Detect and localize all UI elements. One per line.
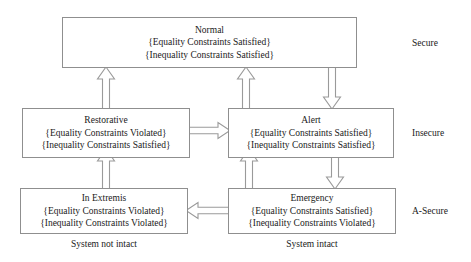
arrow-normal-to-alert [322, 66, 342, 110]
state-box-in-extremis[interactable]: In Extremis {Equality Constraints Violat… [20, 188, 188, 234]
row-label-a-secure: A-Secure [412, 205, 448, 217]
state-inequality-emergency: {Inequality Constraints Violated} [248, 217, 376, 230]
state-inequality-restorative: {Inequality Constraints Satisfied} [42, 139, 171, 152]
operating-states-diagram: Normal {Equality Constraints Satisfied} … [0, 0, 471, 262]
state-title-restorative: Restorative [84, 114, 127, 127]
arrow-alert-to-normal [236, 66, 256, 110]
state-inequality-alert: {Inequality Constraints Satisfied} [247, 139, 376, 152]
state-title-alert: Alert [301, 114, 321, 127]
state-inequality-in-extremis: {Inequality Constraints Violated} [40, 217, 168, 230]
state-equality-normal: {Equality Constraints Satisfied} [148, 36, 271, 49]
state-equality-emergency: {Equality Constraints Satisfied} [251, 205, 374, 218]
state-title-normal: Normal [195, 24, 224, 37]
column-label-system-intact: System intact [228, 238, 396, 250]
state-box-alert[interactable]: Alert {Equality Constraints Satisfied} {… [228, 108, 394, 158]
state-equality-alert: {Equality Constraints Satisfied} [250, 127, 373, 140]
arrow-restorative-to-alert [188, 121, 231, 140]
column-label-system-not-intact: System not intact [20, 238, 188, 250]
state-inequality-normal: {Inequality Constraints Satisfied} [145, 49, 274, 62]
row-label-secure: Secure [412, 37, 438, 49]
arrow-emergency-to-in-extremis [185, 201, 231, 220]
state-title-in-extremis: In Extremis [82, 192, 127, 205]
state-box-restorative[interactable]: Restorative {Equality Constraints Violat… [22, 108, 190, 158]
state-equality-restorative: {Equality Constraints Violated} [45, 127, 166, 140]
row-label-insecure: Insecure [412, 127, 444, 139]
state-equality-in-extremis: {Equality Constraints Violated} [43, 205, 164, 218]
state-box-normal[interactable]: Normal {Equality Constraints Satisfied} … [62, 17, 357, 68]
state-title-emergency: Emergency [290, 192, 333, 205]
arrow-restorative-to-normal [96, 66, 116, 110]
state-box-emergency[interactable]: Emergency {Equality Constraints Satisfie… [228, 188, 396, 234]
